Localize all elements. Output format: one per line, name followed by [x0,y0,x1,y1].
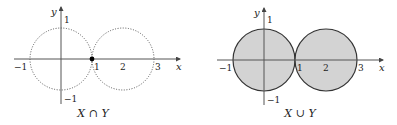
x-tick-neg1: −1 [219,63,232,73]
y-tick-1: 1 [64,15,70,25]
x-tick-3: 3 [358,63,364,73]
intersection-point [90,57,95,62]
x-tick-neg1: −1 [14,62,27,72]
x-axis-label: x [379,62,385,73]
y-tick-1: 1 [267,15,273,25]
intersection-panel: y x 1 −1 −1 1 2 3 X ∩ Y [14,6,182,120]
union-panel: y x 1 −1 −1 1 2 3 X ∪ Y [217,7,385,120]
x-tick-1: 1 [94,62,100,72]
x-tick-2: 2 [120,62,126,72]
diagram-canvas: y x 1 −1 −1 1 2 3 X ∩ Y y x 1 −1 −1 1 2 … [0,0,397,125]
x-tick-2: 2 [323,63,329,73]
y-tick-neg1: −1 [267,95,280,105]
caption-union: X ∪ Y [283,107,317,120]
y-axis-label: y [50,6,57,17]
y-tick-neg1: −1 [64,94,77,104]
x-tick-1: 1 [297,63,303,73]
x-axis-label: x [176,61,182,72]
caption-intersection: X ∩ Y [76,107,110,120]
x-tick-3: 3 [155,62,161,72]
y-axis-label: y [253,7,260,18]
